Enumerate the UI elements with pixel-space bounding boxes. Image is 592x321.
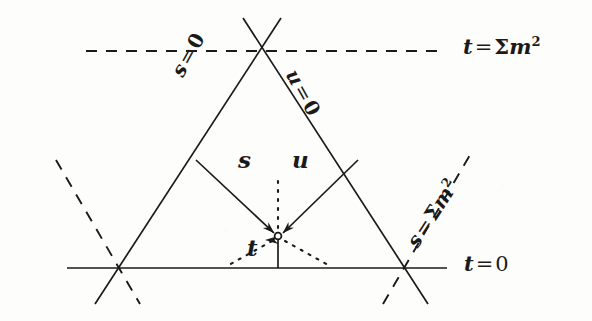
label-arrow-u-var: u: [292, 146, 309, 173]
label-t-sigma: Σ: [494, 34, 509, 59]
label-t-exponent: 2: [531, 34, 540, 49]
line-left-dashed-boundary: [56, 160, 140, 304]
label-t-zero-value: 0: [495, 252, 508, 276]
label-t-equals-sum-m-squared: t=Σm2: [463, 35, 540, 58]
label-t-var: t: [463, 34, 473, 59]
interior-point-marker: [275, 233, 282, 240]
label-t-zero-var: t: [464, 251, 474, 276]
label-t-mass: m: [509, 34, 531, 59]
label-arrow-t-var: t: [247, 234, 258, 261]
label-arrow-s-var: s: [238, 146, 251, 173]
label-t-equals-zero: t=0: [464, 253, 509, 275]
label-arrow-t: t: [247, 236, 258, 260]
label-t-op: =: [473, 35, 495, 59]
label-t-zero-op: =: [474, 252, 496, 276]
label-arrow-u: u: [292, 148, 309, 172]
arrow-s-perpendicular: [196, 160, 274, 233]
line-u-equals-zero: [243, 18, 428, 304]
label-arrow-s: s: [238, 148, 251, 172]
